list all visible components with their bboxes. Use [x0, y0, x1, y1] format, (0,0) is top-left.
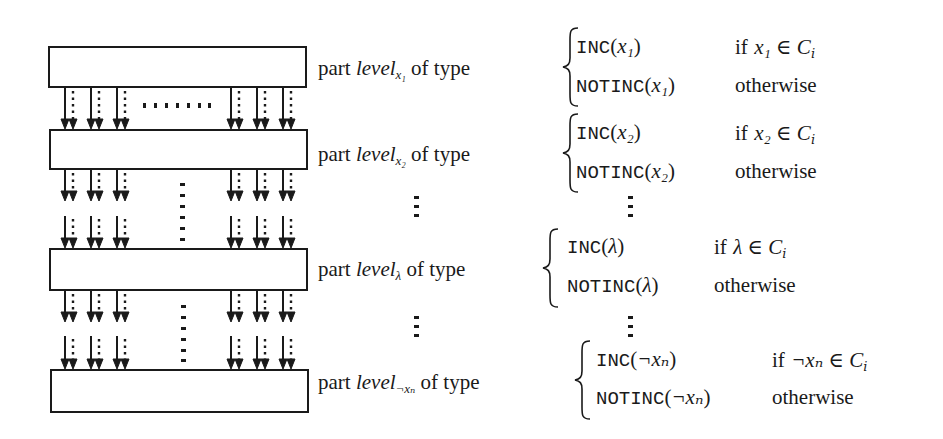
condition-prefix: if: [714, 235, 727, 259]
label-suffix: of type: [411, 142, 470, 166]
label-prefix: part: [318, 370, 351, 394]
case-fn: INC: [576, 37, 610, 59]
label-subscript: x₁: [396, 67, 406, 82]
case-notinc-x2: NOTINC(x₂): [576, 161, 675, 183]
condition-prefix: if: [735, 121, 748, 145]
case-cond-not-xn: if ¬xₙ ∈ Ci: [772, 350, 867, 373]
case-otherwise-x1: otherwise: [735, 75, 817, 96]
case-arg: x₁: [651, 73, 668, 97]
case-fn: NOTINC: [576, 76, 644, 98]
case-inc-lambda: INC(λ): [567, 236, 624, 258]
case-inc-not-xn: INC(¬xₙ): [596, 349, 676, 371]
label-suffix: of type: [406, 257, 465, 281]
label-prefix: part: [318, 257, 351, 281]
condition-text: x₁ ∈ C: [754, 35, 811, 59]
condition-prefix: if: [735, 35, 748, 59]
case-otherwise-lambda: otherwise: [714, 275, 796, 296]
level-label-x2: part levelx₂ of type: [318, 144, 470, 167]
level-label-x1: part levelx₁ of type: [318, 58, 470, 81]
condition-subscript: i: [811, 46, 815, 61]
condition-text: x₂ ∈ C: [754, 121, 811, 145]
case-inc-x1: INC(x₁): [576, 36, 641, 58]
label-prefix: part: [318, 56, 351, 80]
case-fn: INC: [567, 237, 601, 259]
condition-subscript: i: [782, 246, 786, 261]
condition-text: λ ∈ C: [733, 235, 782, 259]
case-arg: ¬xₙ: [637, 347, 669, 371]
level-label-lambda: part levelλ of type: [318, 259, 465, 282]
label-subscript: ¬xₙ: [396, 381, 416, 396]
horizontal-ellipsis-icon: [143, 103, 211, 108]
case-otherwise-x2: otherwise: [735, 161, 817, 182]
condition-subscript: i: [811, 132, 815, 147]
case-arg: x₂: [617, 120, 634, 144]
label-subscript: λ: [396, 268, 402, 283]
label-subscript: x₂: [396, 153, 406, 168]
label-level-name: level: [356, 56, 396, 80]
case-notinc-not-xn: NOTINC(¬xₙ): [596, 387, 710, 409]
case-arg: λ: [642, 273, 651, 297]
condition-prefix: if: [772, 348, 785, 372]
condition-subscript: i: [863, 359, 867, 374]
case-arg: ¬xₙ: [671, 385, 703, 409]
case-fn: NOTINC: [576, 162, 644, 184]
level-box-x1: [48, 46, 307, 88]
label-level-name: level: [356, 142, 396, 166]
case-arg: λ: [608, 234, 617, 258]
level-structure-diagram: part levelx₁ of type part levelx₂ of typ…: [0, 0, 943, 439]
case-fn: NOTINC: [596, 388, 664, 410]
label-level-name: level: [356, 257, 396, 281]
level-box-lambda: [49, 248, 308, 291]
condition-text: ¬xₙ ∈ C: [791, 348, 863, 372]
case-notinc-x1: NOTINC(x₁): [576, 75, 675, 97]
level-box-not-xn: [50, 369, 309, 413]
case-cond-lambda: if λ ∈ Ci: [714, 237, 787, 260]
case-fn: NOTINC: [567, 276, 635, 298]
case-fn: INC: [596, 350, 630, 372]
label-suffix: of type: [411, 56, 470, 80]
case-otherwise-not-xn: otherwise: [772, 387, 854, 408]
label-level-name: level: [356, 370, 396, 394]
case-arg: x₂: [651, 159, 668, 183]
label-prefix: part: [318, 142, 351, 166]
case-inc-x2: INC(x₂): [576, 122, 641, 144]
case-cond-x1: if x₁ ∈ Ci: [735, 37, 815, 60]
case-arg: x₁: [617, 34, 634, 58]
case-fn: INC: [576, 123, 610, 145]
level-box-x2: [49, 129, 308, 170]
case-notinc-lambda: NOTINC(λ): [567, 275, 659, 297]
label-suffix: of type: [421, 370, 480, 394]
case-cond-x2: if x₂ ∈ Ci: [735, 123, 815, 146]
level-label-not-xn: part level¬xₙ of type: [318, 372, 480, 395]
